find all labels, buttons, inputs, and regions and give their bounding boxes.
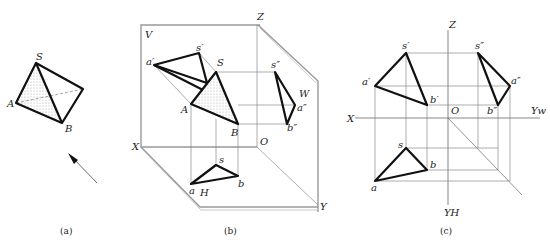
plane-V-label: V	[145, 29, 154, 40]
label-B: B	[64, 123, 72, 134]
figure-a-pyramid: S A B	[6, 51, 83, 134]
axis-Yh-label: YH	[444, 207, 460, 218]
label-a-double-prime: a″	[511, 75, 521, 86]
plane-H-label: H	[199, 187, 209, 198]
label-s-h: s	[219, 154, 224, 165]
axis-X-label: X	[131, 141, 140, 152]
label-s-h: s	[398, 139, 403, 150]
axis-X-label: X	[346, 113, 355, 124]
projection-diagram: S A B (a) V	[0, 0, 550, 250]
label-S: S	[217, 57, 224, 68]
origin-O-label: O	[260, 136, 268, 147]
label-b-double-prime: b″	[287, 122, 297, 133]
figure-c-three-view: Z X O Yw YH s′ a′ b′ s″ a″ b″ s a b	[346, 19, 547, 218]
label-B: B	[230, 127, 238, 138]
label-a-prime: a′	[146, 56, 155, 67]
view-direction-arrow	[68, 153, 97, 183]
axis-Z-label: Z	[448, 19, 457, 30]
label-s-prime: s′	[196, 42, 204, 53]
caption-a: (a)	[60, 226, 72, 236]
axis-Yw-label: Yw	[531, 105, 547, 116]
axis-Z-label: Z	[256, 11, 265, 22]
label-a-h: a	[371, 182, 377, 193]
label-A: A	[180, 104, 188, 115]
origin-O-label: O	[451, 105, 459, 116]
label-s-double-prime: s″	[271, 59, 280, 70]
label-b-h: b	[430, 159, 436, 170]
label-A: A	[6, 98, 14, 109]
caption-b: (b)	[224, 226, 237, 236]
label-b-double-prime: b″	[487, 105, 497, 116]
label-a-h: a	[189, 185, 195, 196]
label-a-prime: a′	[362, 76, 371, 87]
label-b-h: b	[238, 178, 244, 189]
label-s-double-prime: s″	[475, 40, 484, 51]
figure-b-box: V Z X O Y W H a′ s′ S A B s″ a″ b″ s a b	[131, 11, 328, 212]
label-a-double-prime: a″	[297, 102, 307, 113]
axis-Y-label: Y	[320, 201, 328, 212]
plane-W-label: W	[299, 88, 310, 99]
label-s-prime: s′	[402, 40, 410, 51]
label-S: S	[36, 51, 43, 62]
label-b-prime: b′	[430, 94, 439, 105]
caption-c: (c)	[440, 226, 452, 236]
